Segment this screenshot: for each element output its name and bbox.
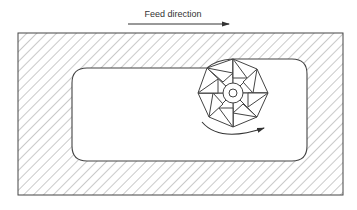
- feed-direction-label: Feed direction: [144, 9, 201, 19]
- pocket-milling-diagram: Feed direction: [0, 0, 357, 210]
- pocket-cavity: [72, 59, 307, 161]
- milling-cutter: [198, 59, 268, 127]
- cutter-spindle-hole: [229, 89, 237, 97]
